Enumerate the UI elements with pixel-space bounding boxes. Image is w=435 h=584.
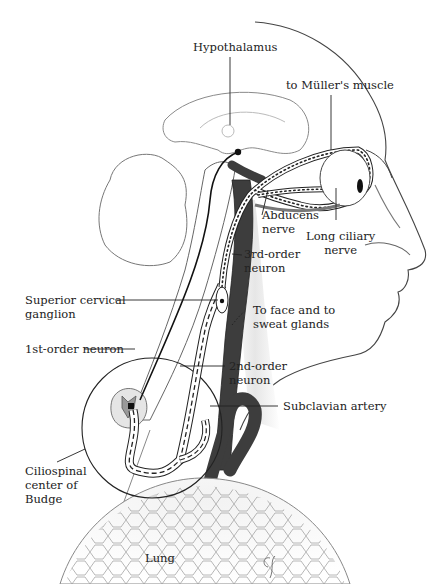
label-second-order-neuron: 2nd-order neuron [229,359,287,387]
label-third-order-line1: 3rd-order [244,247,300,261]
label-face-sweat-line1: To face and to [253,303,335,317]
label-mullers-muscle: to Müller's muscle [286,78,394,92]
label-ciliospinal-line3: Budge [25,492,87,506]
label-scg-line1: Superior cervical [25,293,126,307]
label-second-order-line1: 2nd-order [229,359,287,373]
label-lung: Lung [145,551,175,565]
brain-outline [163,92,309,153]
label-scg-line2: ganglion [25,307,126,321]
label-abducens-line1: Abducens [262,208,319,222]
label-long-ciliary-line1: Long ciliary [306,229,375,243]
cerebellum [99,154,187,265]
label-third-order-line2: neuron [244,261,300,275]
label-ciliospinal-line2: center of [25,478,87,492]
label-face-sweat-glands: To face and to sweat glands [253,303,335,331]
label-second-order-line2: neuron [229,373,287,387]
label-ciliospinal-line1: Ciliospinal [25,464,87,478]
label-face-sweat-line2: sweat glands [253,317,335,331]
label-long-ciliary-nerve: Long ciliary nerve [306,229,375,257]
label-long-ciliary-line2: nerve [306,243,375,257]
label-ciliospinal-center: Ciliospinal center of Budge [25,464,87,506]
label-hypothalamus: Hypothalamus [193,40,277,54]
label-first-order-neuron: 1st-order neuron [25,342,124,356]
label-third-order-neuron: 3rd-order neuron [244,247,300,275]
diagram-canvas: Hypothalamus to Müller's muscle Abducens… [0,0,435,584]
label-superior-cervical-ganglion: Superior cervical ganglion [25,293,126,321]
label-subclavian-artery: Subclavian artery [283,399,387,413]
